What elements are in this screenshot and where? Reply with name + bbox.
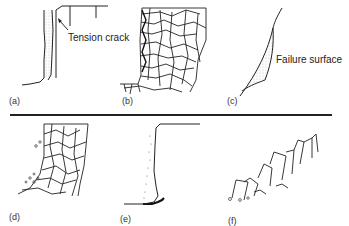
panel-a-drawing (0, 0, 110, 110)
panel-d-drawing (0, 116, 110, 226)
panel-c-label: (c) (227, 97, 238, 106)
panel-a-label: (a) (9, 97, 20, 106)
panel-a: Tension crack (a) (0, 0, 110, 110)
panel-b: (b) (110, 0, 230, 110)
panel-c: Failure surface (c) (220, 0, 349, 110)
panel-d-label: (d) (9, 213, 20, 222)
panel-b-label: (b) (122, 97, 133, 106)
failure-surface-callout: Failure surface (276, 55, 342, 65)
panel-e: (e) (110, 116, 230, 226)
panel-f-drawing (220, 116, 349, 226)
panel-e-label: (e) (120, 215, 131, 224)
panel-b-drawing (110, 0, 230, 110)
panel-f-label: (f) (228, 217, 237, 226)
panel-d: (d) (0, 116, 110, 226)
panel-f: (f) (220, 116, 349, 226)
panel-e-drawing (110, 116, 230, 226)
